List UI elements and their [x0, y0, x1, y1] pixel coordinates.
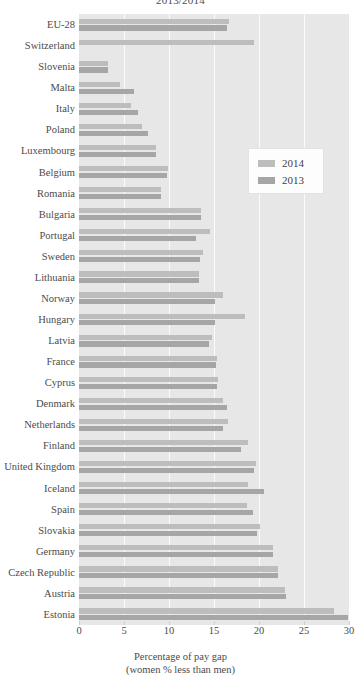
value-axis-title-line1: Percentage of pay gap — [0, 650, 361, 663]
bar-2013 — [79, 489, 264, 494]
bar-2014 — [79, 440, 248, 445]
axis-tick-label: 20 — [254, 625, 265, 636]
bar-2013 — [79, 173, 167, 178]
bar-2014 — [79, 145, 156, 150]
bar-2013 — [79, 299, 215, 304]
axis-tick-label: 0 — [76, 625, 81, 636]
bar-2014 — [79, 40, 254, 45]
bar-2013 — [79, 552, 273, 557]
bar-2014 — [79, 482, 248, 487]
legend-swatch-icon-2013 — [258, 177, 275, 184]
bar-2013 — [79, 573, 278, 578]
bar-2014 — [79, 524, 260, 529]
category-label: Slovakia — [0, 525, 75, 536]
category-label: Romania — [0, 188, 75, 199]
axis-tick-label: 25 — [299, 625, 310, 636]
category-label: EU-28 — [0, 19, 75, 30]
legend-label-2014: 2014 — [282, 158, 304, 169]
bar-2013 — [79, 152, 156, 157]
bar-2013 — [79, 405, 227, 410]
category-label: United Kingdom — [0, 461, 75, 472]
bar-2014 — [79, 187, 161, 192]
bar-2014 — [79, 229, 210, 234]
bar-2014 — [79, 377, 218, 382]
category-label: Estonia — [0, 609, 75, 620]
category-label: Latvia — [0, 335, 75, 346]
bar-2014 — [79, 419, 228, 424]
chart-title: 2013/2014 — [0, 0, 361, 6]
bar-2014 — [79, 292, 223, 297]
category-label: Switzerland — [0, 40, 75, 51]
bar-2014 — [79, 61, 108, 66]
bar-2013 — [79, 531, 257, 536]
bar-2014 — [79, 208, 201, 213]
category-label: Germany — [0, 546, 75, 557]
bar-2013 — [79, 362, 216, 367]
category-label: Poland — [0, 124, 75, 135]
axis-tick-label: 15 — [209, 625, 220, 636]
legend-label-2013: 2013 — [282, 175, 304, 186]
bar-2014 — [79, 587, 285, 592]
category-label: Luxembourg — [0, 145, 75, 156]
category-label: Netherlands — [0, 419, 75, 430]
category-label: Malta — [0, 82, 75, 93]
axis-tick-label: 30 — [344, 625, 355, 636]
bar-2013 — [79, 67, 108, 72]
bar-2014 — [79, 103, 131, 108]
gridline — [259, 14, 260, 625]
legend-item-2013: 2013 — [258, 172, 323, 189]
gridline — [304, 14, 305, 625]
category-label: Finland — [0, 440, 75, 451]
category-label: Czech Republic — [0, 567, 75, 578]
value-axis-title: Percentage of pay gap (women % less than… — [0, 650, 361, 676]
chart-legend: 2014 2013 — [248, 148, 324, 194]
category-label: Sweden — [0, 251, 75, 262]
bar-2014 — [79, 335, 212, 340]
bar-2013 — [79, 510, 253, 515]
bar-2013 — [79, 594, 286, 599]
bar-2013 — [79, 384, 217, 389]
category-label: Cyprus — [0, 377, 75, 388]
category-label: Hungary — [0, 314, 75, 325]
bar-2014 — [79, 250, 203, 255]
pay-gap-bar-chart: 2013/2014 EU-28SwitzerlandSloveniaMaltaI… — [0, 0, 361, 692]
bar-2014 — [79, 314, 245, 319]
category-label: Denmark — [0, 398, 75, 409]
bar-2014 — [79, 19, 229, 24]
bar-2013 — [79, 110, 138, 115]
bar-2013 — [79, 89, 134, 94]
bar-2014 — [79, 566, 278, 571]
category-axis-labels: EU-28SwitzerlandSloveniaMaltaItalyPoland… — [0, 14, 75, 625]
bar-2013 — [79, 194, 161, 199]
category-label: Norway — [0, 293, 75, 304]
bar-2013 — [79, 320, 215, 325]
bar-2014 — [79, 271, 199, 276]
plot-area — [79, 14, 349, 625]
bar-2013 — [79, 131, 148, 136]
bar-2014 — [79, 124, 142, 129]
legend-swatch-icon-2014 — [258, 160, 275, 167]
bar-2013 — [79, 615, 348, 620]
bar-2013 — [79, 341, 209, 346]
bar-2014 — [79, 398, 223, 403]
value-axis-title-line2: (women % less than men) — [0, 663, 361, 676]
bar-2014 — [79, 503, 247, 508]
category-label: Spain — [0, 504, 75, 515]
value-axis-ticks: 051015202530 — [0, 625, 361, 645]
category-label: France — [0, 356, 75, 367]
axis-tick-label: 10 — [164, 625, 175, 636]
category-label: Lithuania — [0, 272, 75, 283]
category-label: Bulgaria — [0, 209, 75, 220]
category-label: Belgium — [0, 167, 75, 178]
bar-2013 — [79, 257, 200, 262]
category-label: Austria — [0, 588, 75, 599]
bar-2013 — [79, 215, 201, 220]
bar-2014 — [79, 545, 273, 550]
bar-2013 — [79, 468, 254, 473]
category-label: Slovenia — [0, 61, 75, 72]
category-label: Portugal — [0, 230, 75, 241]
bar-2013 — [79, 447, 241, 452]
bar-2014 — [79, 82, 120, 87]
bar-2014 — [79, 166, 168, 171]
category-label: Italy — [0, 103, 75, 114]
